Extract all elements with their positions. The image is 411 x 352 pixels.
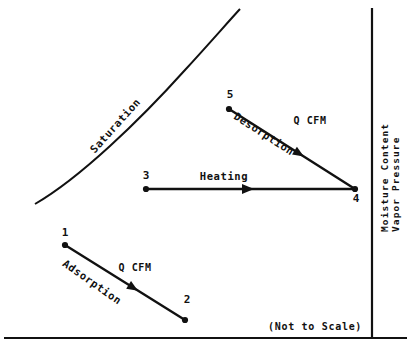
adsorption-arrowhead: [126, 281, 140, 295]
saturation-label: Saturation: [87, 96, 142, 155]
point-5-dot: [226, 106, 232, 112]
heating-arrowhead: [242, 184, 254, 194]
y-axis-label-group: Moisture Content Vapor Pressure: [379, 123, 401, 232]
heating-label: Heating: [200, 170, 248, 182]
point-3-dot: [143, 186, 149, 192]
diagram-canvas: Moisture Content Vapor Pressure Saturati…: [0, 0, 411, 352]
y-axis-label-moisture-content: Moisture Content: [379, 123, 390, 232]
point-1-label: 1: [62, 226, 69, 239]
point-2-label: 2: [184, 293, 191, 306]
point-1-dot: [62, 242, 68, 248]
y-axis-label-vapor-pressure: Vapor Pressure: [390, 137, 401, 232]
not-to-scale-note: (Not to Scale): [268, 321, 362, 332]
psychrometric-process-diagram: Moisture Content Vapor Pressure Saturati…: [0, 0, 411, 352]
adsorption-label: Adsorption: [61, 257, 125, 307]
heating-process-group: Heating 3 4: [143, 169, 360, 205]
point-4-label: 4: [353, 192, 360, 205]
desorption-label: Desorption: [232, 110, 297, 158]
point-2-dot: [182, 317, 188, 323]
point-3-label: 3: [143, 169, 150, 182]
adsorption-process-group: Adsorption Q CFM 1 2: [61, 226, 191, 323]
point-5-label: 5: [227, 88, 234, 101]
desorption-flow-label: Q CFM: [293, 115, 326, 126]
adsorption-flow-label: Q CFM: [118, 262, 151, 273]
